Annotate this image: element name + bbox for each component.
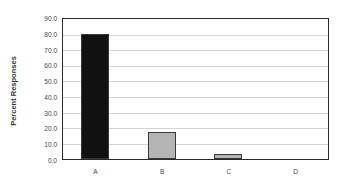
y-tick-label: 0.0 [27,157,57,164]
y-tick-label: 20.0 [27,125,57,132]
y-tick-label: 50.0 [27,78,57,85]
bar-a [81,34,109,159]
y-tick-label: 70.0 [27,46,57,53]
bar-c [214,154,242,159]
y-tick-label: 10.0 [27,141,57,148]
bar-chart: Percent Responses 0.010.020.030.040.050.… [0,0,340,190]
y-tick-label: 60.0 [27,62,57,69]
x-tick-label: A [93,168,97,175]
bar-b [148,132,176,159]
y-tick-label: 90.0 [27,15,57,22]
y-tick-label: 30.0 [27,109,57,116]
x-tick-label: B [160,168,164,175]
y-tick-label: 40.0 [27,93,57,100]
plot-area [62,18,329,160]
x-tick-label: C [227,168,232,175]
y-tick-label: 80.0 [27,30,57,37]
y-axis-label: Percent Responses [9,56,18,126]
x-tick-label: D [293,168,298,175]
